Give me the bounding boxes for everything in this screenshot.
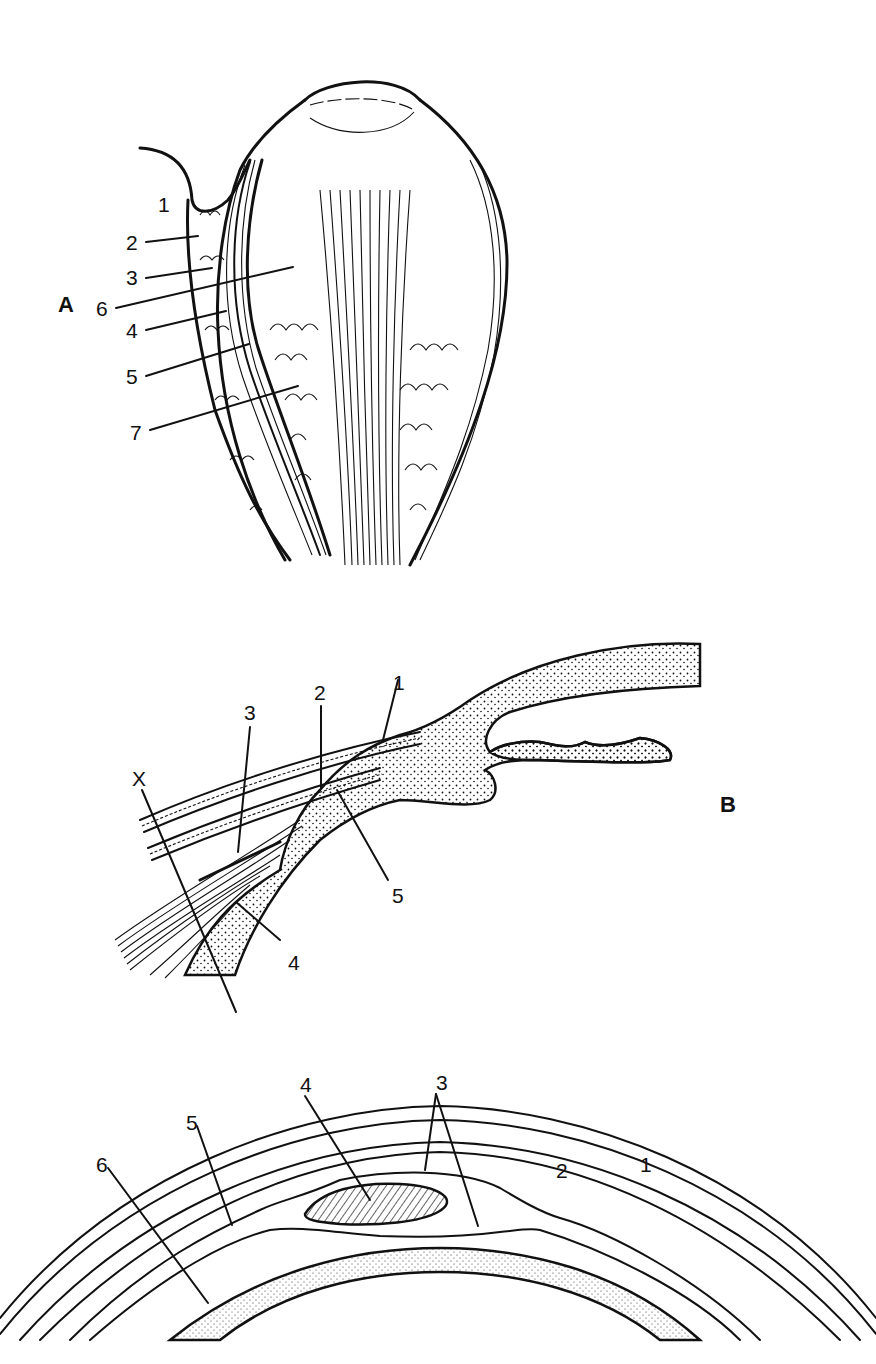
panel-a-label-2: 2 [126, 231, 138, 254]
panel-c-label-3: 3 [436, 1071, 448, 1094]
panel-a-label-6: 6 [96, 297, 108, 320]
panel-a-label-5: 5 [126, 365, 138, 388]
panel-a-label-3: 3 [126, 266, 138, 289]
panel-b-label-3: 3 [244, 701, 256, 724]
panel-c-label-2: 2 [556, 1159, 568, 1182]
panel-b-marker-x: X [132, 767, 146, 790]
panel-b-angle-cross-section [115, 643, 700, 1012]
panel-b-letter: B [720, 792, 736, 817]
panel-b-label-4: 4 [288, 951, 300, 974]
panel-c-label-1: 1 [640, 1153, 652, 1176]
panel-b-label-2: 2 [314, 681, 326, 704]
panel-b-label-1: 1 [393, 671, 405, 694]
panel-a-leader-lines [116, 236, 298, 430]
panel-a-letter: A [58, 292, 74, 317]
panel-a-label-7: 7 [130, 421, 142, 444]
panel-b-label-5: 5 [392, 884, 404, 907]
panel-a-eyeball-drawing [116, 82, 507, 565]
fat-lobules [200, 211, 458, 510]
eye-anatomy-diagram: A 1 2 3 4 5 6 7 [0, 0, 876, 1364]
panel-c-label-4: 4 [300, 1073, 312, 1096]
panel-c-label-5: 5 [186, 1111, 198, 1134]
panel-a-label-1: 1 [158, 193, 170, 216]
panel-a-label-4: 4 [126, 319, 138, 342]
panel-c-layered-arc-section [0, 1094, 876, 1340]
optic-nerve-fibers [320, 190, 410, 565]
panel-c-label-6: 6 [96, 1153, 108, 1176]
